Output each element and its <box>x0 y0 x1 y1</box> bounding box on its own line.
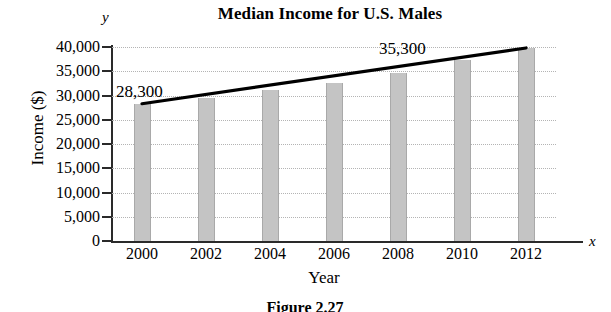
y-tick-mark <box>102 119 111 121</box>
trend-line <box>112 47 556 241</box>
y-tick-label: 0 <box>0 233 100 249</box>
trend-line-segment <box>142 48 526 104</box>
y-tick-label: 20,000 <box>0 136 100 152</box>
figure-container: Median Income for U.S. Males y x Income … <box>0 0 611 312</box>
y-tick-mark <box>102 46 111 48</box>
annotation-35300: 35,300 <box>379 40 426 57</box>
annotation-28300: 28,300 <box>116 83 163 100</box>
y-tick-mark <box>102 192 111 194</box>
y-tick-label: 5,000 <box>0 209 100 225</box>
y-tick-mark <box>102 240 111 242</box>
y-tick-mark <box>102 143 111 145</box>
y-tick-mark <box>102 167 111 169</box>
x-tick-label-2002: 2002 <box>171 245 241 263</box>
y-tick-label: 25,000 <box>0 112 100 128</box>
x-axis-marker: x <box>589 233 596 250</box>
x-tick-label-2008: 2008 <box>363 245 433 263</box>
x-axis-title: Year <box>264 268 384 288</box>
y-tick-mark <box>102 216 111 218</box>
y-axis-marker: y <box>102 9 109 26</box>
x-tick-label-2010: 2010 <box>427 245 497 263</box>
y-tick-label: 10,000 <box>0 185 100 201</box>
y-tick-mark <box>102 95 111 97</box>
x-tick-label-2000: 2000 <box>107 245 177 263</box>
x-tick-label-2006: 2006 <box>299 245 369 263</box>
y-tick-label: 40,000 <box>0 39 100 55</box>
x-tick-label-2012: 2012 <box>491 245 561 263</box>
y-tick-label: 35,000 <box>0 63 100 79</box>
plot-area <box>112 47 556 241</box>
x-axis-line <box>111 241 583 243</box>
chart-title: Median Income for U.S. Males <box>150 4 510 24</box>
figure-caption: Figure 2.27 <box>205 299 405 312</box>
y-tick-label: 30,000 <box>0 88 100 104</box>
y-tick-label: 15,000 <box>0 160 100 176</box>
x-tick-label-2004: 2004 <box>235 245 305 263</box>
y-tick-mark <box>102 70 111 72</box>
